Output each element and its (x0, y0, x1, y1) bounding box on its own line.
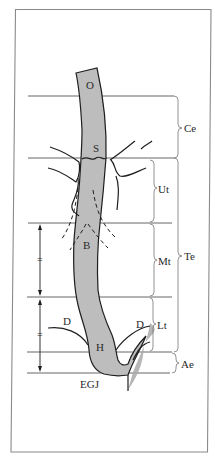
equal-mark-lower: = (37, 329, 43, 340)
brace-ae (172, 353, 179, 373)
brace-ce (174, 96, 182, 158)
region-braces (150, 96, 182, 373)
region-label-ae: Ae (181, 358, 194, 370)
region-label-te: Te (184, 250, 195, 262)
region-label-ut: Ut (158, 183, 169, 195)
figure-frame (11, 10, 211, 453)
landmark-h: H (96, 341, 104, 353)
landmark-s: S (93, 142, 99, 154)
landmark-egj: EGJ (80, 378, 100, 390)
equal-length-arrows: = = (37, 224, 43, 372)
diaphragm-left (48, 328, 88, 345)
region-label-lt: Lt (157, 319, 167, 331)
landmark-o: O (86, 79, 94, 91)
region-label-mt: Mt (158, 255, 171, 267)
esophagus-diagram: = = Ce Ut Mt Te Lt Ae O S B H D D EGJ (0, 0, 215, 463)
brace-ut (150, 160, 157, 222)
region-label-ce: Ce (184, 122, 196, 134)
landmark-d-left: D (63, 315, 71, 327)
equal-mark-upper: = (37, 254, 43, 265)
landmark-b: B (83, 239, 90, 251)
brace-te (174, 158, 182, 352)
brace-mt (150, 224, 157, 296)
landmark-d-right: D (136, 318, 144, 330)
